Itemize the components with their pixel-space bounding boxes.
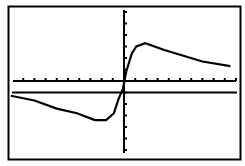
graph-canvas [0,0,245,166]
calculator-graph-screen [0,0,245,166]
